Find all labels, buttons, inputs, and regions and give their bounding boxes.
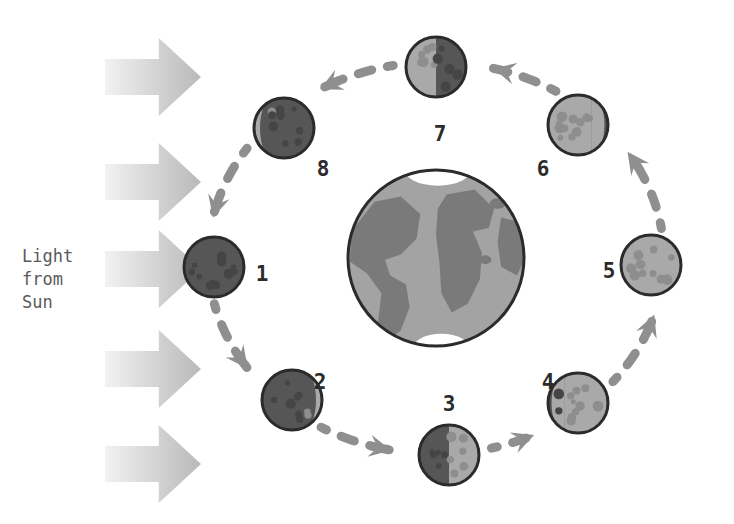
moon-4-crater-11 <box>581 384 589 392</box>
moon-1-crater-6 <box>231 265 236 270</box>
moon-6-lit-region <box>548 95 591 155</box>
moon-3-crater-9 <box>459 462 468 471</box>
moon-3-crater-4 <box>447 456 454 463</box>
sun-ray-5 <box>105 425 201 503</box>
moon-3-crater-8 <box>459 434 468 443</box>
moon-8-crater-8 <box>282 140 288 146</box>
earth-north-ice-cap <box>403 147 473 186</box>
moon-5-crater-7 <box>636 260 645 269</box>
moon-7-crater-9 <box>433 53 443 63</box>
moon-7-crater-8 <box>418 57 429 68</box>
moon-4-crater-10 <box>567 413 576 422</box>
moon-4-crater-7 <box>555 407 562 414</box>
moon-6-crater-2 <box>557 135 563 141</box>
moon-1-new-moon <box>184 237 244 297</box>
moon-5-crater-8 <box>650 270 657 277</box>
earth-south-ice-cap <box>411 334 471 369</box>
moon-6-crater-10 <box>587 115 593 121</box>
moon-4-crater-5 <box>572 387 580 395</box>
moon-1-crater-8 <box>192 263 197 268</box>
moon-8-waning-crescent <box>254 98 314 158</box>
moon-7-crater-11 <box>439 46 445 52</box>
moon-5-crater-6 <box>630 270 641 281</box>
moon-5-crater-11 <box>657 274 666 283</box>
moon-8-crater-10 <box>268 121 278 131</box>
moon-7-last-quarter <box>406 37 466 97</box>
moon-3-crater-1 <box>446 432 456 442</box>
moon-2-crater-10 <box>285 380 290 385</box>
moon-5-crater-4 <box>639 269 646 276</box>
moon-4-crater-9 <box>593 401 604 412</box>
moon-7-crater-1 <box>441 81 451 91</box>
moon-1-crater-11 <box>217 251 227 261</box>
land-island-east <box>479 255 491 264</box>
moon-4-waxing-gibbous <box>548 373 608 433</box>
moon-5-crater-3 <box>633 250 643 260</box>
moon-4-crater-8 <box>571 399 576 404</box>
moon-6-crater-11 <box>555 123 566 134</box>
moon-5-crater-9 <box>668 254 675 261</box>
sun-ray-1 <box>105 38 201 116</box>
moon-6-waning-gibbous <box>548 95 608 155</box>
moon-8-crater-11 <box>294 138 302 146</box>
moon-8-crater-4 <box>268 111 276 119</box>
moon-2-crater-7 <box>286 399 296 409</box>
moon-1-crater-3 <box>188 268 195 275</box>
moon-6-crater-9 <box>576 118 584 126</box>
moon-1-crater-5 <box>196 274 202 280</box>
moon-8-crater-9 <box>277 114 283 120</box>
moon-5-full-moon <box>621 235 681 295</box>
moon-7-crater-10 <box>429 43 437 51</box>
moon-7-number-label: 7 <box>434 122 447 146</box>
moon-2-crater-3 <box>271 397 277 403</box>
moon-3-crater-7 <box>436 463 442 469</box>
moon-3-crater-10 <box>441 451 448 458</box>
light-from-sun-line-3: Sun <box>22 291 73 314</box>
moon-5-number-label: 5 <box>603 259 616 283</box>
moon-3-number-label: 3 <box>443 392 456 416</box>
moon-2-number-label: 2 <box>314 370 327 394</box>
moon-1-number-label: 1 <box>256 262 269 286</box>
moon-6-crater-7 <box>557 111 568 122</box>
moon-3-crater-11 <box>430 452 436 458</box>
moon-1-crater-9 <box>210 279 215 284</box>
light-from-sun-line-2: from <box>22 268 73 291</box>
moon-7-crater-5 <box>452 69 462 79</box>
moon-3-first-quarter <box>419 425 479 485</box>
moon-8-number-label: 8 <box>317 157 330 181</box>
earth-group <box>348 147 528 369</box>
moon-3-crater-6 <box>450 470 458 478</box>
moon-4-number-label: 4 <box>542 370 555 394</box>
diagram-canvas: 12345678 <box>0 0 734 524</box>
sun-ray-2 <box>105 143 201 221</box>
moon-6-number-label: 6 <box>537 157 550 181</box>
moon-3-crater-5 <box>459 448 466 455</box>
moon-4-crater-3 <box>553 389 564 400</box>
moon-4-crater-1 <box>567 392 574 399</box>
light-from-sun-line-1: Light <box>22 245 73 268</box>
moon-2-crater-2 <box>296 392 303 399</box>
moon-2-crater-6 <box>304 408 311 415</box>
light-from-sun-label: LightfromSun <box>22 245 73 314</box>
moon-phases-diagram: 12345678 LightfromSun <box>0 0 734 524</box>
moon-6-crater-5 <box>572 127 582 137</box>
moon-2-crater-11 <box>296 410 301 415</box>
moon-5-crater-2 <box>650 246 658 254</box>
moon-8-crater-1 <box>296 127 303 134</box>
moon-8-crater-5 <box>291 106 296 111</box>
sun-ray-4 <box>105 330 201 408</box>
